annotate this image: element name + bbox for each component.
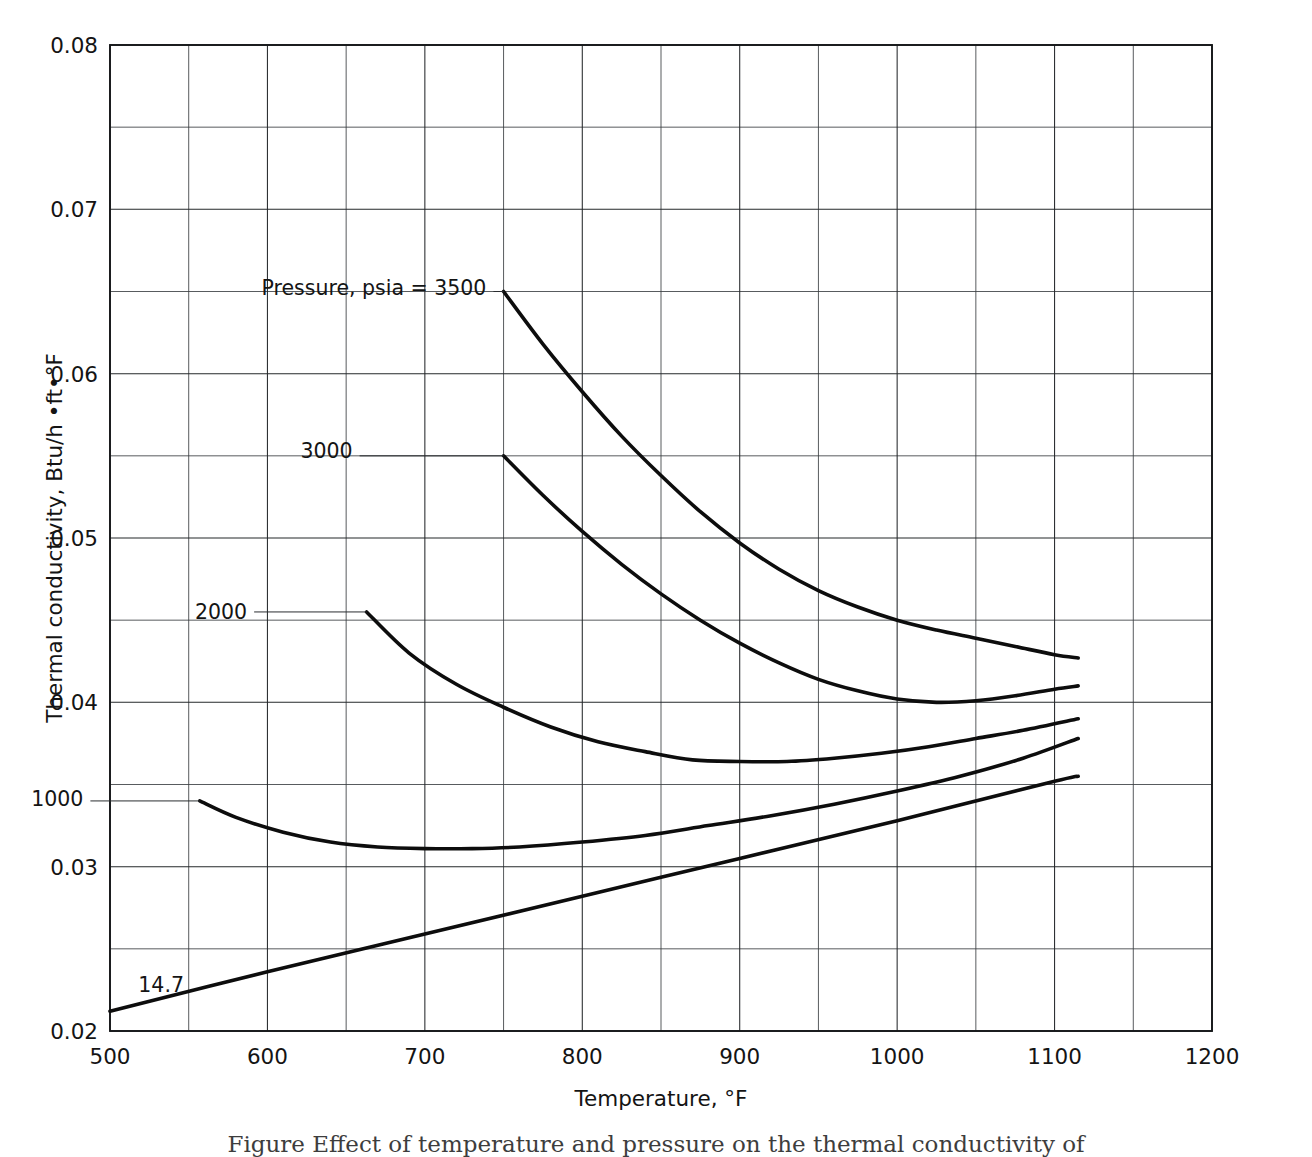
x-tick-label: 1100 [1027, 1044, 1082, 1069]
series-labels: Pressure, psia = 350030002000100014.7 [31, 276, 486, 997]
x-axis-title: Temperature, °F [574, 1086, 748, 1111]
series-label-14.7: 14.7 [138, 973, 184, 997]
series-leader-lines [90, 292, 503, 801]
x-tick-label: 1000 [870, 1044, 925, 1069]
x-axis-tick-labels: 500600700800900100011001200 [89, 1044, 1239, 1069]
x-tick-label: 600 [247, 1044, 288, 1069]
thermal-conductivity-chart: Pressure, psia = 350030002000100014.7 50… [0, 0, 1312, 1157]
series-label-2000: 2000 [195, 600, 247, 624]
series-curve-14.7 [110, 776, 1078, 1011]
x-tick-label: 800 [562, 1044, 603, 1069]
series-curve-3500 [504, 292, 1079, 658]
y-axis-title: Thermal conductivity, Btu/h •ft•°F [42, 353, 67, 724]
figure-root: Pressure, psia = 350030002000100014.7 50… [0, 0, 1312, 1157]
x-tick-label: 500 [89, 1044, 130, 1069]
figure-caption: Figure Effect of temperature and pressur… [227, 1131, 1086, 1157]
series-curve-1000 [200, 738, 1078, 848]
y-tick-label: 0.08 [50, 33, 98, 58]
series-label-3500: Pressure, psia = 3500 [262, 276, 487, 300]
x-tick-label: 900 [719, 1044, 760, 1069]
y-tick-label: 0.03 [50, 855, 98, 880]
series-label-1000: 1000 [31, 787, 83, 811]
series-curve-3000 [504, 456, 1079, 703]
series-label-3000: 3000 [300, 439, 352, 463]
y-tick-label: 0.02 [50, 1019, 98, 1044]
y-tick-label: 0.07 [50, 197, 98, 222]
series-curves [110, 292, 1078, 1012]
x-tick-label: 700 [404, 1044, 445, 1069]
x-tick-label: 1200 [1185, 1044, 1240, 1069]
